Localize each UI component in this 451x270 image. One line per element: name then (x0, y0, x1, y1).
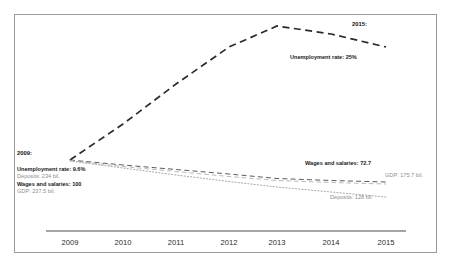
chart-container: 2009: Unemployment rate: 9.6% Deposits: … (0, 0, 451, 270)
annotation-2015-wages: Wages and salaries: 72.7 (305, 160, 371, 167)
x-tick-2010: 2010 (103, 238, 143, 247)
x-tick-2011: 2011 (156, 238, 196, 247)
x-tick-2012: 2012 (209, 238, 249, 247)
annotation-2009-gdp: GDP: 237.5 bil. (17, 188, 85, 194)
annotation-2009-deposits: Deposits: 234 bil. (17, 173, 85, 179)
annotation-2009-unemployment: Unemployment rate: 9.6% (17, 166, 85, 172)
x-tick-2014: 2014 (311, 238, 351, 247)
x-tick-2015: 2015 (366, 238, 406, 247)
annotation-2015-gdp: GDP: 175.7 bil. (385, 172, 423, 179)
annotation-2015-unemployment: Unemployment rate: 25% (290, 54, 357, 61)
annotation-2009-wages: Wages and salaries: 100 (17, 181, 85, 187)
x-tick-2009: 2009 (50, 238, 90, 247)
annotation-2015-deposits: Deposits: 128 bil. (330, 194, 373, 201)
annotation-2009-header: 2009: (17, 150, 32, 158)
annotation-2009-block: Unemployment rate: 9.6% Deposits: 234 bi… (17, 166, 85, 196)
chart-frame (14, 14, 437, 253)
annotation-2015-header: 2015: (352, 21, 367, 29)
x-tick-2013: 2013 (257, 238, 297, 247)
